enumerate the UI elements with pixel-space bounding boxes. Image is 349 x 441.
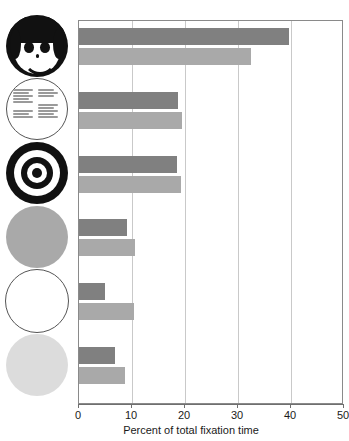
stimulus-icon-column	[0, 20, 74, 404]
outline-circle-icon	[2, 270, 72, 332]
gridline-40	[291, 21, 292, 403]
chart-title-remnant	[140, 0, 340, 8]
bar-text-circle-light	[79, 112, 182, 129]
bar-gray-disc-dark	[79, 219, 127, 236]
bar-text-circle-dark	[79, 92, 178, 109]
pale-disc-icon	[2, 334, 72, 396]
bar-smiley-face-light	[79, 48, 251, 65]
bar-bullseye-light	[79, 176, 181, 193]
bar-fill	[79, 112, 182, 129]
bar-outline-circle-light	[79, 303, 134, 320]
text-circle-icon	[2, 78, 72, 140]
bar-fill	[79, 347, 115, 364]
bar-smiley-face-dark	[79, 28, 289, 45]
plot-area	[78, 20, 343, 404]
gridline-10	[132, 21, 133, 403]
gridline-30	[238, 21, 239, 403]
bar-pale-disc-dark	[79, 347, 115, 364]
bar-fill	[79, 176, 181, 193]
bar-fill	[79, 219, 127, 236]
bar-fill	[79, 28, 289, 45]
bar-outline-circle-dark	[79, 283, 105, 300]
x-tick-10	[131, 404, 132, 408]
gray-disc-icon	[2, 206, 72, 268]
bar-gray-disc-light	[79, 239, 135, 256]
bar-fill	[79, 92, 178, 109]
x-tick-50	[343, 404, 344, 408]
x-axis-title: Percent of total fixation time	[0, 424, 348, 436]
bar-fill	[79, 367, 125, 384]
bar-fill	[79, 156, 177, 173]
bar-fill	[79, 239, 135, 256]
bar-pale-disc-light	[79, 367, 125, 384]
bar-fill	[79, 283, 105, 300]
x-tick-label-20: 20	[178, 409, 190, 421]
smiley-face-icon	[2, 15, 72, 77]
x-tick-label-40: 40	[284, 409, 296, 421]
gridline-20	[185, 21, 186, 403]
x-tick-40	[290, 404, 291, 408]
x-axis-title-label: Percent of total fixation time	[89, 424, 259, 436]
x-axis-line	[78, 404, 343, 405]
bar-fill	[79, 303, 134, 320]
bullseye-icon	[2, 142, 72, 204]
x-tick-label-50: 50	[337, 409, 349, 421]
bar-fill	[79, 48, 251, 65]
x-tick-label-0: 0	[75, 409, 81, 421]
x-tick-label-30: 30	[231, 409, 243, 421]
x-tick-30	[237, 404, 238, 408]
x-tick-20	[184, 404, 185, 408]
x-tick-0	[78, 404, 79, 408]
x-tick-label-10: 10	[125, 409, 137, 421]
bar-bullseye-dark	[79, 156, 177, 173]
